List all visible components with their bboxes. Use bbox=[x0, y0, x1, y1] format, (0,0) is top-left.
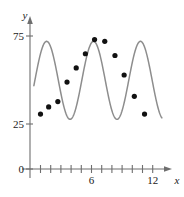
data-point bbox=[92, 37, 97, 42]
data-point bbox=[74, 65, 79, 70]
y-tick-label-25: 25 bbox=[13, 118, 25, 130]
x-tick-label-12: 12 bbox=[147, 174, 158, 186]
x-axis-label: x bbox=[174, 174, 180, 186]
data-point bbox=[142, 111, 147, 116]
data-point bbox=[102, 39, 107, 44]
data-point bbox=[83, 51, 88, 56]
x-axis bbox=[22, 166, 172, 171]
x-axis-arrowhead bbox=[164, 166, 172, 171]
data-point bbox=[38, 111, 43, 116]
y-axis-label: y bbox=[22, 9, 28, 21]
y-tick-label-0: 0 bbox=[19, 163, 25, 175]
y-axis bbox=[27, 16, 33, 178]
data-point bbox=[122, 72, 127, 77]
fitted-sinusoid-curve bbox=[34, 41, 162, 119]
data-point bbox=[112, 53, 117, 58]
data-point bbox=[132, 94, 137, 99]
y-axis-arrowhead bbox=[27, 16, 33, 24]
data-point bbox=[46, 104, 51, 109]
sinusoidal-scatter-chart: 75 25 0 y 6 12 x bbox=[0, 0, 184, 197]
x-tick-label-6: 6 bbox=[89, 174, 95, 186]
data-point bbox=[55, 99, 60, 104]
data-point bbox=[64, 80, 69, 85]
y-tick-label-75: 75 bbox=[13, 30, 25, 42]
scatter-points bbox=[38, 37, 147, 117]
